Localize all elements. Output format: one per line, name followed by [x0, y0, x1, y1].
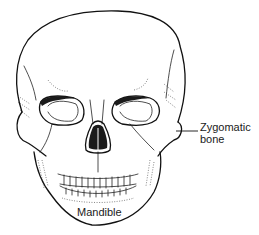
right-brow: [134, 78, 148, 90]
right-zygo-suture: [130, 124, 154, 150]
left-brow: [48, 80, 68, 91]
lower-teeth: [60, 186, 136, 203]
label-mandible: Mandible: [77, 206, 122, 218]
skull-illustration: [0, 0, 259, 235]
right-temporal-shading: [164, 84, 176, 108]
left-zygo-suture: [40, 124, 52, 152]
right-ramus-shading: [146, 160, 154, 186]
label-zygomatic-line-1: Zygomatic: [200, 121, 251, 133]
right-temporal-line: [166, 50, 174, 98]
right-zygomatic: [158, 122, 181, 156]
label-mandible-text: Mandible: [77, 206, 122, 218]
upper-teeth: [58, 174, 138, 188]
label-zygomatic-line-2: bone: [200, 133, 251, 145]
skull-diagram: Zygomatic bone Mandible: [0, 0, 259, 235]
label-zygomatic-bone: Zygomatic bone: [200, 121, 251, 145]
left-orbit-inner: [48, 101, 78, 121]
left-temporal-line: [24, 66, 36, 100]
right-orbit-inner: [120, 101, 152, 121]
